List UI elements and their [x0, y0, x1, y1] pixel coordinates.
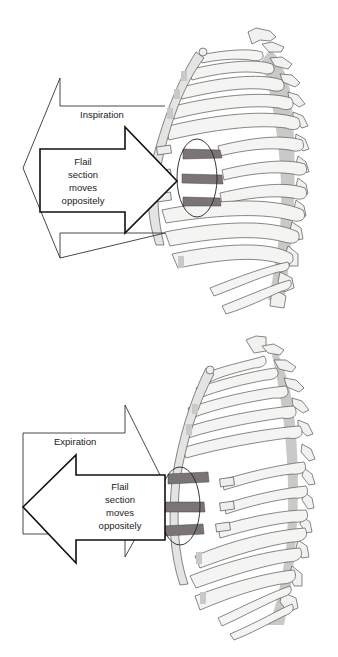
flail-label-line: moves — [48, 181, 118, 194]
inspiration-label: Inspiration — [80, 108, 124, 121]
flail-label-line: Flail — [85, 480, 155, 493]
rib-cage-illustration — [170, 336, 315, 640]
flail-segments — [162, 472, 209, 536]
expiration-label: Expiration — [54, 435, 96, 448]
flail-label-line: moves — [85, 506, 155, 519]
flail-label-line: Flail — [48, 155, 118, 168]
rib-cage-illustration — [148, 28, 309, 314]
expiration-diagram — [0, 320, 338, 657]
flail-label-line: oppositely — [48, 194, 118, 207]
expiration-panel: Expiration Flail section moves oppositel… — [0, 320, 338, 657]
flail-label-bottom: Flail section moves oppositely — [85, 480, 155, 532]
inspiration-panel: Inspiration Flail section moves opposite… — [0, 0, 338, 320]
flail-label-line: section — [85, 493, 155, 506]
flail-label-top: Flail section moves oppositely — [48, 155, 118, 207]
flail-label-line: oppositely — [85, 519, 155, 532]
flail-label-line: section — [48, 168, 118, 181]
